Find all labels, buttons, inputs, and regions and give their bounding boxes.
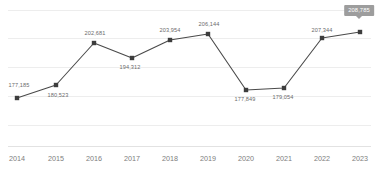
x-tick-2015: 2015	[48, 154, 64, 163]
data-label-2016: 202,681	[85, 30, 106, 36]
series-line	[17, 32, 360, 98]
data-point-marker[interactable]	[358, 30, 362, 34]
series-plot	[0, 0, 379, 170]
data-point-marker[interactable]	[130, 56, 134, 60]
x-tick-2019: 2019	[200, 154, 216, 163]
data-label-2017: 194,312	[120, 64, 141, 70]
data-label-2014: 177,185	[9, 82, 30, 88]
data-point-marker[interactable]	[15, 96, 19, 100]
data-label-2018: 203,954	[160, 27, 181, 33]
data-label-2020: 177,849	[235, 96, 256, 102]
data-label-2015: 180,523	[48, 92, 69, 98]
data-point-marker[interactable]	[54, 83, 58, 87]
x-tick-2021: 2021	[276, 154, 292, 163]
x-tick-2023: 2023	[352, 154, 368, 163]
data-point-marker[interactable]	[92, 41, 96, 45]
data-point-marker[interactable]	[244, 88, 248, 92]
x-tick-2018: 2018	[162, 154, 178, 163]
data-label-2022: 207,344	[312, 27, 333, 33]
x-tick-2017: 2017	[124, 154, 140, 163]
data-label-2021: 179,054	[273, 94, 294, 100]
line-chart: 177,185 180,523 202,681 194,312 203,954 …	[0, 0, 379, 170]
x-tick-2020: 2020	[238, 154, 254, 163]
x-tick-2022: 2022	[314, 154, 330, 163]
x-tick-2014: 2014	[9, 154, 25, 163]
data-point-marker[interactable]	[168, 38, 172, 42]
data-point-marker[interactable]	[282, 86, 286, 90]
highlight-tooltip-badge[interactable]: 208,785	[344, 5, 374, 16]
data-label-2019: 206,144	[199, 21, 220, 27]
data-point-marker[interactable]	[320, 36, 324, 40]
data-point-marker[interactable]	[206, 32, 210, 36]
x-tick-2016: 2016	[86, 154, 102, 163]
tooltip-pointer-icon	[356, 16, 362, 19]
